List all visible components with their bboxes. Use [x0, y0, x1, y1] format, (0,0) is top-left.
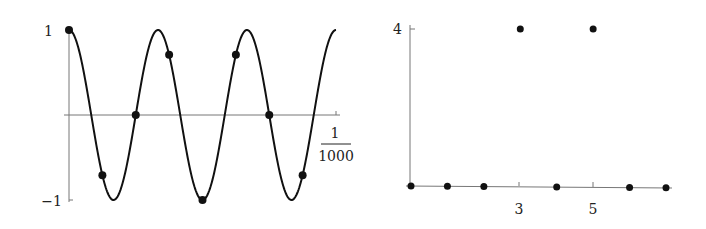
- spectrum-point: [408, 183, 415, 190]
- spectrum-point: [517, 26, 524, 33]
- spectrum-point: [590, 26, 597, 33]
- spectrum-point: [480, 183, 487, 190]
- x-tick-label-5: 5: [589, 201, 598, 217]
- y-tick-label-4: 4: [393, 21, 402, 37]
- sample-point: [132, 111, 140, 119]
- sample-point: [165, 51, 173, 59]
- spectrum-point: [626, 184, 633, 191]
- sample-point: [299, 171, 307, 179]
- sample-point: [265, 111, 273, 119]
- right-plot: 4 3 5: [393, 21, 672, 217]
- sample-point: [199, 196, 207, 204]
- sample-point: [232, 51, 240, 59]
- x-tick-label-denominator: 1000: [318, 148, 354, 164]
- x-tick-label-numerator: 1: [331, 125, 340, 141]
- spectrum-point: [444, 183, 451, 190]
- spectrum-point: [663, 184, 670, 191]
- y-tick-label-neg1: −1: [41, 193, 62, 209]
- left-plot: 1 −1 1 1000: [41, 23, 353, 209]
- spectrum-points: [408, 26, 670, 192]
- y-tick-label-1: 1: [44, 23, 53, 39]
- figure: 1 −1 1 1000 4 3 5: [0, 0, 706, 229]
- sample-point: [98, 171, 106, 179]
- sample-point: [65, 26, 73, 34]
- x-tick-label-3: 3: [515, 201, 524, 217]
- spectrum-point: [553, 184, 560, 191]
